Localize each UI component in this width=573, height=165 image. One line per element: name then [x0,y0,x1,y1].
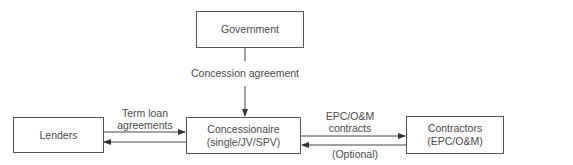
contractors-line1: Contractors [428,122,482,135]
contractors-line2: (EPC/O&M) [427,135,482,148]
epc-line2: contracts [315,122,385,134]
term-loan-line1: Term loan [110,107,180,119]
lenders-node: Lenders [13,117,104,153]
concession-agreement-label: Concession agreement [190,67,300,79]
contractors-node: Contractors (EPC/O&M) [406,116,504,154]
term-loan-label: Term loan agreements [110,107,180,131]
government-node: Government [196,11,304,48]
epc-line1: EPC/O&M [315,110,385,122]
term-loan-line2: agreements [110,119,180,131]
lenders-label: Lenders [40,129,78,142]
concessionaire-node: Concessionaire (single/JV/SPV) [186,117,301,154]
concessionaire-line2: (single/JV/SPV) [207,136,281,149]
government-label: Government [221,23,279,36]
optional-label: (Optional) [320,148,390,160]
epc-contracts-label: EPC/O&M contracts [315,110,385,134]
concessionaire-line1: Concessionaire [207,123,279,136]
